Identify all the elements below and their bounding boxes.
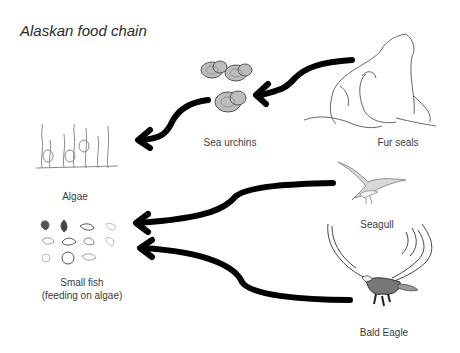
- algae-label: Algae: [52, 190, 98, 203]
- arrow-eagle-to-smallfish: [142, 248, 350, 300]
- small-fish-label-line1: Small fish: [36, 276, 128, 289]
- bald-eagle-label: Bald Eagle: [354, 326, 414, 339]
- small-fish-image: [34, 216, 124, 266]
- algae-image: [34, 122, 120, 172]
- fur-seals-image: [296, 26, 446, 136]
- arrow-seagull-to-smallfish: [138, 183, 333, 223]
- small-fish-label: Small fish (feeding on algae): [36, 276, 128, 302]
- small-fish-label-line2: (feeding on algae): [36, 289, 128, 302]
- sea-urchins-image: [196, 56, 258, 120]
- seagull-image: [336, 160, 420, 206]
- fur-seals-label: Fur seals: [368, 136, 428, 149]
- bald-eagle-image: [322, 222, 442, 312]
- sea-urchins-label: Sea urchins: [198, 136, 262, 149]
